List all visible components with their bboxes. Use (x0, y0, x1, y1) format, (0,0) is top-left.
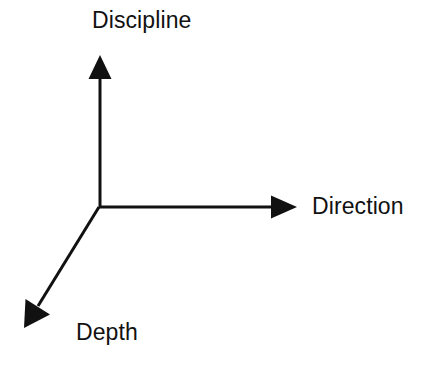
axis-label-discipline: Discipline (92, 9, 191, 32)
direction-arrowhead-icon (271, 196, 297, 219)
three-axis-diagram: Discipline Direction Depth (0, 0, 431, 377)
axes-drawing (0, 0, 431, 377)
axis-direction (99, 196, 297, 219)
discipline-arrowhead-icon (89, 55, 112, 79)
depth-axis-line (38, 207, 99, 306)
axis-discipline (89, 55, 112, 207)
axis-depth (24, 207, 99, 328)
axis-label-depth: Depth (76, 321, 138, 344)
depth-arrowhead-icon (24, 299, 50, 328)
axis-label-direction: Direction (312, 195, 404, 218)
